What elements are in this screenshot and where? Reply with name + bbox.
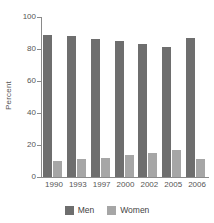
men-swatch — [65, 206, 74, 215]
x-axis-tick-label: 2006 — [185, 180, 209, 190]
y-axis-tick-label: 100 — [16, 13, 36, 21]
y-axis-tick-label: 80 — [16, 45, 36, 53]
x-axis-tick-label: 1990 — [42, 180, 66, 190]
bar-women-1990 — [53, 161, 62, 177]
bar-men-1990 — [43, 35, 52, 177]
legend-label: Men — [78, 206, 95, 215]
bar-men-1993 — [67, 36, 76, 177]
bar-men-2006 — [186, 38, 195, 177]
bar-women-2002 — [148, 153, 157, 177]
y-axis-tick-label: 60 — [16, 77, 36, 85]
legend-entry-women[interactable]: Women — [107, 206, 149, 215]
y-axis-title: Percent — [0, 55, 16, 135]
x-axis-tick-label: 2005 — [161, 180, 185, 190]
bar-women-2005 — [172, 150, 181, 177]
legend-entry-men[interactable]: Men — [65, 206, 95, 215]
bar-men-2002 — [138, 44, 147, 177]
bar-group — [161, 17, 185, 177]
bar-group — [185, 17, 209, 177]
x-axis-line — [41, 177, 209, 178]
bar-chart: Percent 020406080100 1990199319972000200… — [0, 0, 214, 223]
bar-women-2000 — [125, 155, 134, 177]
bar-group — [137, 17, 161, 177]
bar-group — [42, 17, 66, 177]
y-axis-tick-labels: 020406080100 — [16, 17, 36, 177]
women-swatch — [107, 206, 116, 215]
y-axis-tick-label: 0 — [16, 173, 36, 181]
bar-group — [66, 17, 90, 177]
bar-men-1997 — [91, 39, 100, 177]
chart-legend: MenWomen — [0, 203, 214, 217]
bar-group — [90, 17, 114, 177]
x-axis-tick-labels: 1990199319972000200220052006 — [42, 180, 209, 194]
plot-area — [42, 17, 209, 177]
bar-women-1993 — [77, 159, 86, 177]
x-axis-tick-label: 2002 — [137, 180, 161, 190]
bar-men-2000 — [115, 41, 124, 177]
bar-women-1997 — [101, 158, 110, 177]
y-axis-tick-label: 40 — [16, 109, 36, 117]
bar-men-2005 — [162, 47, 171, 177]
x-axis-tick-label: 2000 — [114, 180, 138, 190]
bar-group — [114, 17, 138, 177]
bar-women-2006 — [196, 159, 205, 177]
y-axis-title-label: Percent — [4, 81, 13, 110]
legend-label: Women — [120, 206, 149, 215]
x-axis-tick-label: 1993 — [66, 180, 90, 190]
y-axis-tick-label: 20 — [16, 141, 36, 149]
x-axis-tick-label: 1997 — [90, 180, 114, 190]
